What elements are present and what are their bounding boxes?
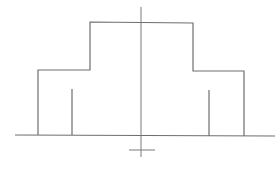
figure-caption xyxy=(70,166,210,174)
baseline xyxy=(15,135,275,136)
stepped-profile-diagram xyxy=(0,0,280,174)
